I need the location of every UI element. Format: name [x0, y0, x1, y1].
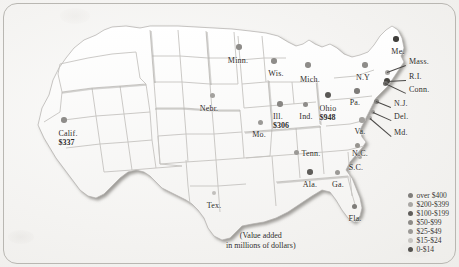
- state-dot: [258, 120, 263, 125]
- us-value-added-map: Minn.Wis.Mich.Nebr.Mo.Ill.$306Ind.Ohio$9…: [0, 0, 459, 267]
- state-dot: [352, 204, 357, 209]
- caption-line-2: in millions of dollars): [226, 241, 296, 251]
- state-name: Ala.: [303, 180, 317, 189]
- state-dot: [236, 44, 242, 50]
- state-name: Fla.: [348, 214, 361, 223]
- state-name: Ill.: [273, 112, 283, 121]
- state-dot: [305, 62, 311, 68]
- state-label: Me.: [391, 48, 404, 57]
- state-dot: [307, 169, 313, 175]
- state-label: Md.: [394, 129, 408, 138]
- state-name: S.C.: [349, 163, 364, 172]
- state-name: Tenn.: [302, 149, 321, 158]
- state-name: Ind.: [299, 112, 312, 121]
- state-label: Tenn.: [302, 150, 321, 159]
- state-label: Va.: [354, 128, 365, 137]
- legend-row: $15-$24: [408, 236, 450, 244]
- state-label: Ala.: [303, 181, 317, 190]
- state-name: Me.: [391, 47, 404, 56]
- state-dot: [335, 170, 340, 175]
- state-label: Calif.$337: [58, 130, 77, 148]
- state-name: N.Y: [356, 73, 370, 82]
- state-label: N.C.: [352, 150, 368, 159]
- state-dot: [61, 117, 67, 123]
- state-label: Minn.: [228, 57, 248, 66]
- legend-label: over $400: [417, 191, 447, 200]
- state-label: Wis.: [268, 70, 283, 79]
- legend-swatch-dot: [408, 247, 413, 252]
- legend-label: $100-$199: [417, 209, 450, 218]
- legend-label: $15-$24: [417, 236, 442, 245]
- state-label: Fla.: [348, 215, 361, 224]
- legend-row: $25-$49: [408, 227, 450, 235]
- state-label: Mo.: [252, 131, 266, 140]
- map-caption: (Value added in millions of dollars): [226, 231, 296, 250]
- state-label: Pa.: [350, 99, 361, 108]
- legend-row: $50-$99: [408, 218, 450, 226]
- state-name: Calif.: [58, 129, 77, 138]
- state-name: Wis.: [268, 69, 283, 78]
- legend-swatch-dot: [408, 229, 413, 234]
- state-value: $337: [58, 139, 77, 148]
- state-dot: [210, 93, 215, 98]
- state-dot: [325, 92, 331, 98]
- state-label: Ohio$948: [320, 105, 337, 123]
- state-label: S.C.: [349, 164, 364, 173]
- state-label: Ind.: [299, 113, 312, 122]
- state-name: Tex.: [207, 201, 222, 210]
- legend: over $400$200-$399$100-$199$50-$99$25-$4…: [408, 191, 450, 253]
- state-name: Ga.: [332, 180, 344, 189]
- state-label: Ill.$306: [273, 113, 289, 131]
- state-dot: [294, 150, 299, 155]
- state-name: Minn.: [228, 56, 248, 65]
- state-label: Ga.: [332, 181, 344, 190]
- state-dot: [354, 88, 360, 94]
- legend-label: $25-$49: [417, 227, 442, 236]
- state-dot: [362, 62, 368, 68]
- state-dot: [359, 117, 365, 123]
- legend-row: $100-$199: [408, 209, 450, 217]
- state-label: R.I.: [409, 73, 422, 82]
- legend-swatch-dot: [408, 220, 413, 225]
- legend-label: $200-$399: [417, 200, 450, 209]
- state-name: Mo.: [252, 130, 266, 139]
- state-dot: [277, 101, 283, 107]
- state-name: Pa.: [350, 98, 361, 107]
- state-value: $948: [320, 114, 337, 123]
- legend-row: $200-$399: [408, 200, 450, 208]
- state-label: N.J.: [394, 100, 408, 109]
- state-name: Va.: [354, 127, 365, 136]
- state-value: $306: [273, 122, 289, 131]
- state-name: Nebr.: [200, 104, 219, 113]
- legend-swatch-dot: [408, 211, 413, 216]
- state-dot: [303, 102, 308, 107]
- legend-label: 0-$14: [417, 245, 435, 254]
- state-name: Ohio: [320, 104, 337, 113]
- state-label: Del.: [394, 113, 408, 122]
- caption-line-1: (Value added: [226, 231, 296, 241]
- state-name: Mich.: [300, 75, 320, 84]
- state-label: Mass.: [409, 58, 429, 67]
- state-dot: [271, 58, 277, 64]
- state-label: N.Y: [356, 74, 370, 83]
- state-dot: [355, 143, 360, 148]
- legend-label: $50-$99: [417, 218, 442, 227]
- state-dot: [393, 36, 399, 42]
- legend-swatch-dot: [408, 202, 413, 207]
- state-label: Conn.: [409, 86, 429, 95]
- state-label: Nebr.: [200, 105, 219, 114]
- legend-swatch-dot: [408, 238, 413, 243]
- legend-row: over $400: [408, 191, 450, 199]
- state-label: Tex.: [207, 202, 222, 211]
- state-name: N.C.: [352, 149, 368, 158]
- legend-row: 0-$14: [408, 245, 450, 253]
- legend-swatch-dot: [408, 193, 413, 198]
- state-label: Mich.: [300, 76, 320, 85]
